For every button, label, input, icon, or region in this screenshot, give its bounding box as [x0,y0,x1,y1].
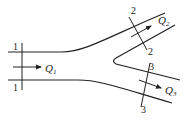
section-2-bottom-label: 2 [148,46,153,57]
bifurcating-pipe-diagram: 1 1 2 2 3 3 Q1 Q2 Q3 [0,0,193,121]
section-1-top-label: 1 [13,41,18,52]
flow-arrow-q2 [131,26,151,37]
flow-arrow-q3 [139,80,161,88]
section-1-bottom-label: 1 [13,82,18,93]
section-3-bottom-label: 3 [141,104,146,115]
section-3-top-label: 3 [149,61,154,72]
section-2-top-label: 2 [131,5,136,16]
flow-label-q3: Q3 [165,84,177,98]
flow-label-q1: Q1 [45,62,56,76]
upper-outer-wall [8,13,165,52]
branch-inner-wall [114,25,181,80]
flow-label-q2: Q2 [158,14,170,28]
